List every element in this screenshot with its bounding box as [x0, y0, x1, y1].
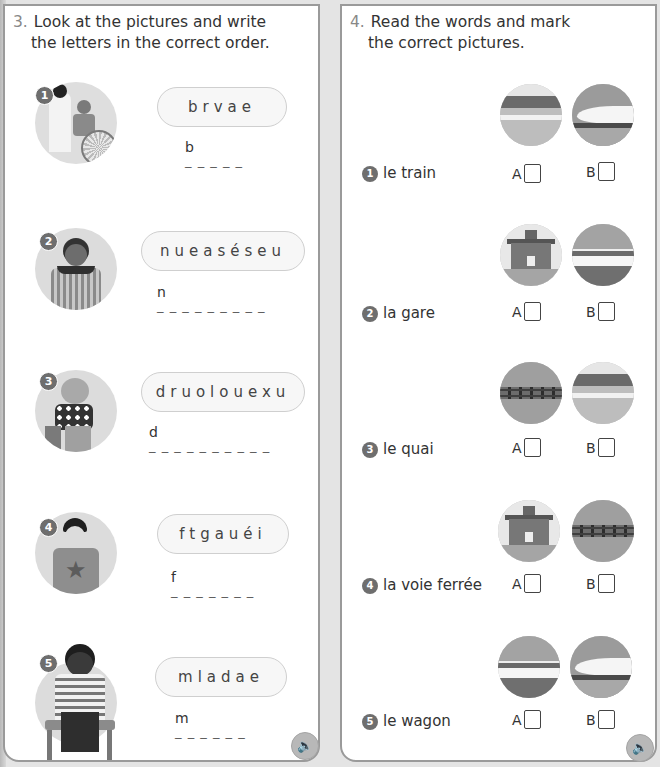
picture-a-railway-track — [500, 362, 562, 424]
word-label: 5le wagon — [362, 712, 451, 730]
speaker-icon[interactable]: 🔈 — [291, 732, 319, 760]
option-a-checkbox[interactable]: A — [512, 710, 541, 729]
picture-a-station-building — [500, 224, 562, 286]
item-number-badge: 2 — [39, 232, 58, 251]
option-b-checkbox[interactable]: B — [586, 574, 615, 593]
answer-field[interactable]: d _ _ _ _ _ _ _ _ _ _ — [149, 424, 270, 453]
scrambled-letters: druolouexu — [141, 372, 305, 412]
picture-b-platform — [572, 362, 634, 424]
scramble-item-5: 5 mladae m _ _ _ _ _ _ — [5, 650, 318, 760]
picture-b-wagon — [572, 224, 634, 286]
picture-b-railway-track — [572, 500, 634, 562]
speaker-icon[interactable]: 🔈 — [626, 734, 654, 762]
option-b-checkbox[interactable]: B — [586, 710, 615, 729]
word-label: 4la voie ferrée — [362, 576, 482, 594]
answer-field[interactable]: f _ _ _ _ _ _ _ — [171, 569, 254, 598]
exercise-number: 3. — [13, 13, 28, 31]
item-number-badge: 5 — [39, 654, 58, 673]
option-b-checkbox[interactable]: B — [586, 438, 615, 457]
answer-field[interactable]: m _ _ _ _ _ _ — [175, 710, 246, 739]
option-a-checkbox[interactable]: A — [512, 574, 541, 593]
option-b-checkbox[interactable]: B — [586, 162, 615, 181]
picture-a-wagon — [498, 636, 560, 698]
picture-b-high-speed-train — [570, 636, 632, 698]
option-a-checkbox[interactable]: A — [512, 438, 541, 457]
exercise-3-panel: 3.Look at the pictures and write the let… — [3, 4, 320, 762]
item-number-badge: 1 — [35, 86, 54, 105]
word-label: 2la gare — [362, 304, 435, 322]
option-b-checkbox[interactable]: B — [586, 302, 615, 321]
word-item-1: 1le train A B — [342, 84, 655, 214]
word-label: 1le train — [362, 164, 436, 182]
word-item-3: 3le quai A B — [342, 360, 655, 490]
scrambled-letters: ftgauéi — [157, 514, 289, 554]
exercise-number: 4. — [350, 13, 365, 31]
word-label: 3le quai — [362, 440, 434, 458]
scramble-item-1: 1 brvae b _ _ _ _ _ — [5, 82, 318, 192]
answer-field[interactable]: b _ _ _ _ _ — [185, 139, 243, 168]
picture-b-high-speed-train — [572, 84, 634, 146]
picture-a-station-building — [498, 500, 560, 562]
word-item-4: 4la voie ferrée A B — [342, 498, 655, 628]
exercise-3-instructions: 3.Look at the pictures and write the let… — [13, 12, 270, 54]
scrambled-letters: nueaséseu — [141, 231, 305, 271]
picture-a-platform — [500, 84, 562, 146]
item-number-badge: 3 — [39, 372, 58, 391]
answer-field[interactable]: n _ _ _ _ _ _ _ _ _ — [157, 284, 266, 313]
scramble-item-2: 2 nueaséseu n _ _ _ _ _ _ _ _ _ — [5, 228, 318, 338]
item-number-badge: 4 — [39, 518, 58, 537]
exercise-4-panel: 4.Read the words and mark the correct pi… — [340, 4, 657, 762]
scrambled-letters: brvae — [157, 87, 287, 127]
word-item-5: 5le wagon A B — [342, 634, 655, 764]
word-item-2: 2la gare A B — [342, 222, 655, 352]
scrambled-letters: mladae — [155, 657, 287, 697]
scramble-item-3: 3 druolouexu d _ _ _ _ _ _ _ _ _ _ — [5, 370, 318, 480]
option-a-checkbox[interactable]: A — [512, 164, 541, 183]
exercise-4-instructions: 4.Read the words and mark the correct pi… — [350, 12, 570, 54]
scramble-item-4: ★ 4 ftgauéi f _ _ _ _ _ _ _ — [5, 512, 318, 622]
option-a-checkbox[interactable]: A — [512, 302, 541, 321]
